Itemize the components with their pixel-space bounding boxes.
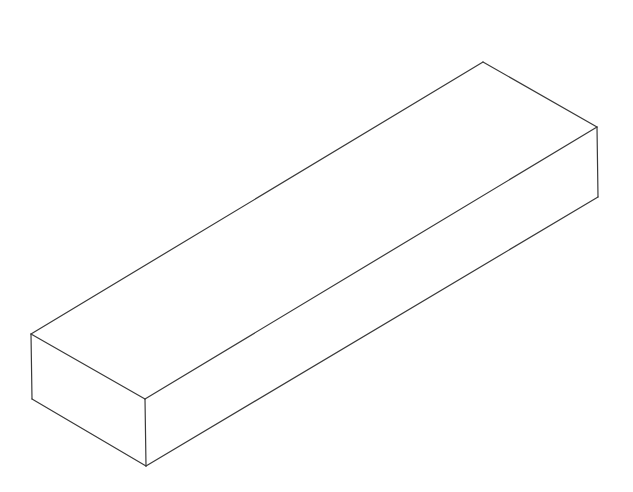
box-edge-left-vertical-edge <box>31 334 32 399</box>
box-edge-right-vertical-edge <box>597 127 598 197</box>
box-edge-top-back-long-edge <box>31 62 483 334</box>
box-edge-bottom-front-long-edge <box>146 197 598 466</box>
box-edge-top-front-long-edge <box>145 127 597 399</box>
box-edge-top-right-end-edge <box>483 62 597 127</box>
isometric-box-drawing <box>0 0 633 492</box>
technical-drawing-canvas <box>0 0 633 492</box>
box-edge-bottom-left-end-edge <box>32 399 146 466</box>
box-edge-top-left-end-edge <box>31 334 145 399</box>
box-edge-front-vertical-edge <box>145 399 146 466</box>
